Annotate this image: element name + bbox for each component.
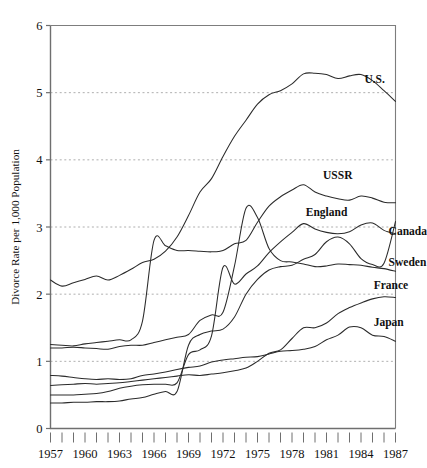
series-label-sweden: Sweden [389,256,427,268]
x-tick-label-1957: 1957 [38,447,63,461]
divorce-rate-line-chart: 0123456 19571960196319661969197219751978… [0,0,427,468]
series-label-canada: Canada [389,225,427,237]
x-tick-label-1987: 1987 [383,447,408,461]
y-tick-label-6: 6 [36,19,42,33]
chart-container: 0123456 19571960196319661969197219751978… [0,0,427,468]
y-tick-label-4: 4 [36,153,43,167]
series-label-japan: Japan [374,316,405,329]
x-tick-label-1978: 1978 [280,447,305,461]
chart-background [0,0,427,468]
y-tick-label-3: 3 [36,221,42,235]
x-tick-label-1975: 1975 [245,447,270,461]
x-tick-label-1984: 1984 [349,447,375,461]
x-axis-tick-labels: 1957196019631966196919721975197819811984… [38,447,408,461]
y-tick-label-5: 5 [36,86,42,100]
x-tick-label-1966: 1966 [142,447,167,461]
y-axis-title: Divorce Rate per 1,000 Population [9,149,21,305]
x-tick-label-1972: 1972 [211,447,236,461]
series-label-france: France [374,279,408,291]
y-tick-label-1: 1 [36,355,42,369]
x-tick-label-1981: 1981 [314,447,339,461]
x-tick-label-1969: 1969 [176,447,201,461]
y-tick-label-2: 2 [36,288,42,302]
x-tick-label-1960: 1960 [73,447,98,461]
x-tick-label-1963: 1963 [107,447,132,461]
series-label-u-s: U.S. [364,73,385,85]
series-label-england: England [306,206,348,219]
y-tick-label-0: 0 [36,422,42,436]
series-label-ussr: USSR [323,169,353,181]
